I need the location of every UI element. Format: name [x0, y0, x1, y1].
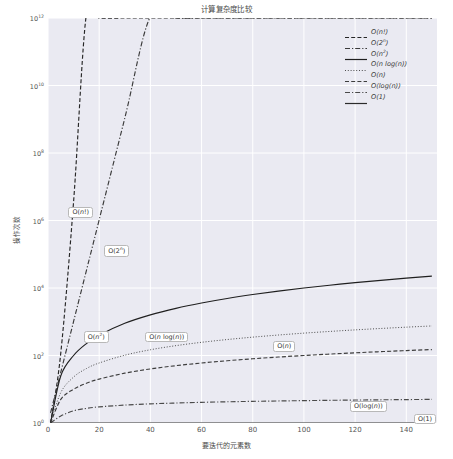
- x-tick-label: 60: [182, 426, 222, 434]
- legend-item-label: O(n2): [371, 49, 388, 58]
- legend-line-sample: [345, 60, 367, 69]
- legend-item-o-n-[interactable]: O(n): [345, 71, 437, 81]
- x-tick-label: 20: [79, 426, 119, 434]
- legend-item-label: O(n log(n)): [371, 60, 407, 68]
- annotation-o-n-: O(n): [273, 341, 295, 352]
- legend-item-o-1-[interactable]: O(1): [345, 92, 437, 102]
- annotation-o-2-n-: O(2n): [104, 245, 129, 257]
- chart-figure: 计算复杂度比较 操作次数 要迭代的元素数 1001021041061081010…: [0, 0, 453, 459]
- x-tick-label: 0: [28, 426, 68, 434]
- legend-item-label: O(log(n)): [371, 82, 401, 90]
- legend-item-label: O(n!): [371, 28, 388, 36]
- legend-item-o-n-2-[interactable]: O(n2): [345, 49, 437, 59]
- annotation-o-n-2-: O(n2): [84, 331, 109, 343]
- legend-item-label: O(n): [371, 71, 386, 79]
- annotation-o-n-: O(n!): [68, 207, 93, 218]
- annotation-o-log-n-: O(log(n)): [350, 401, 387, 412]
- x-tick-label: 40: [130, 426, 170, 434]
- legend-line-sample: [345, 27, 367, 36]
- legend-item-label: O(2n): [371, 38, 388, 47]
- legend-line-sample: [345, 49, 367, 58]
- x-tick-label: 140: [386, 426, 426, 434]
- annotation-o-1-: O(1): [414, 414, 436, 425]
- legend-item-label: O(1): [371, 93, 386, 101]
- legend-line-sample: [345, 38, 367, 47]
- annotation-o-n-log-n-: O(n log(n)): [145, 332, 188, 343]
- legend-line-sample: [345, 93, 367, 102]
- legend-item-o-n-log-n-[interactable]: O(n log(n)): [345, 60, 437, 70]
- legend-line-sample: [345, 71, 367, 80]
- legend-line-sample: [345, 82, 367, 91]
- x-tick-label: 120: [335, 426, 375, 434]
- legend-item-o-log-n-[interactable]: O(log(n)): [345, 81, 437, 91]
- legend-item-o-2-n-[interactable]: O(2n): [345, 38, 437, 48]
- x-tick-label: 80: [233, 426, 273, 434]
- legend-item-o-n-[interactable]: O(n!): [345, 27, 437, 37]
- chart-legend[interactable]: O(n!)O(2n)O(n2)O(n log(n))O(n)O(log(n))O…: [343, 24, 439, 105]
- x-tick-label: 100: [284, 426, 324, 434]
